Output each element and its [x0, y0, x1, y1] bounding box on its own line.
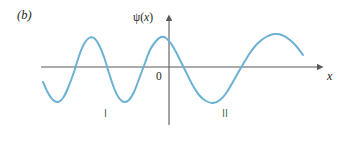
- y-axis-label: ψ(x): [133, 12, 153, 24]
- y-axis-label-paren: ): [149, 11, 153, 23]
- wavefunction-plot: [0, 0, 344, 141]
- region-two-label: II: [222, 108, 228, 119]
- region-one-label: I: [104, 108, 107, 119]
- origin-label: 0: [156, 71, 162, 83]
- wavefunction-curve: [43, 34, 303, 103]
- panel-label: (b): [17, 9, 32, 22]
- figure-panel: (b) ψ(x) x 0 I II: [0, 0, 344, 141]
- y-axis-label-psi: ψ(: [133, 11, 144, 23]
- x-axis-label: x: [327, 70, 332, 82]
